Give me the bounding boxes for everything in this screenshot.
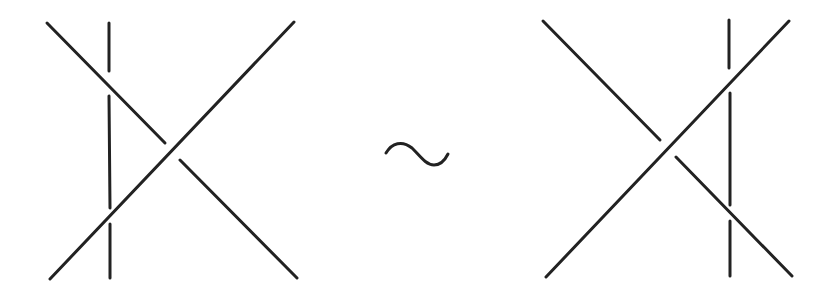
right-tangle xyxy=(543,20,792,277)
left-over-diagonal xyxy=(50,22,294,279)
reidemeister-diagram xyxy=(0,0,833,302)
equivalence-tilde-icon xyxy=(386,143,448,165)
left-under-diagonal-upper xyxy=(47,23,165,143)
left-tangle xyxy=(47,22,297,279)
right-under-diagonal-lower xyxy=(676,157,792,276)
left-vertical-strand-middle xyxy=(109,96,110,208)
right-under-diagonal-upper xyxy=(543,21,660,140)
left-under-diagonal-lower xyxy=(180,160,297,278)
